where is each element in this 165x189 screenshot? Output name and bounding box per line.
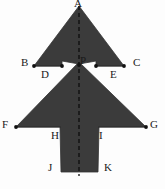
vertex-label-j: J [48,162,52,173]
vertex-dot-c [122,64,126,68]
vertex-label-h: H [51,130,59,141]
vertex-dot-e [94,64,98,68]
vertex-label-i: I [99,130,103,141]
vertex-label-b: B [21,57,28,68]
lower-triangle-shape [16,62,146,172]
vertex-label-f: F [2,119,8,130]
vertex-label-e: E [110,69,117,80]
vertex-label-d: D [41,69,49,80]
vertex-label-g: G [150,119,158,130]
figure-canvas [0,0,165,189]
geometry-figure: A B C D E P F G H I J K [0,0,165,189]
vertex-dot-f [14,125,18,129]
vertex-dot-g [144,125,148,129]
vertex-dot-b [32,64,36,68]
vertex-label-p: P [80,55,86,66]
vertex-label-c: C [133,57,140,68]
vertex-dot-d [60,64,64,68]
vertex-label-k: K [104,162,112,173]
vertex-label-a: A [74,0,82,9]
